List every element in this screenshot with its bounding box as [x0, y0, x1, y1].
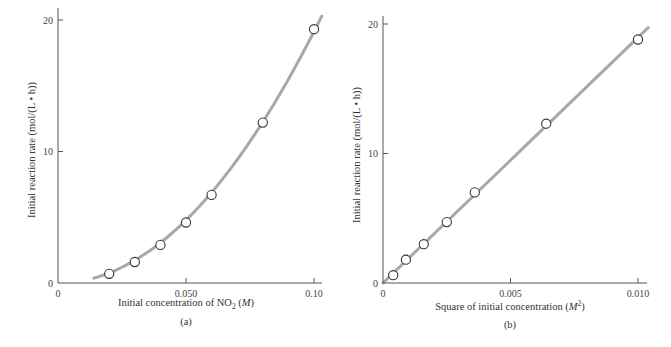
x-tick-label: 0.10 — [305, 288, 323, 299]
data-point — [156, 240, 165, 249]
panel-label-a: (a) — [180, 316, 192, 328]
data-point — [130, 257, 139, 266]
x-axis-label-a: Initial concentration of NO2 (M) — [118, 297, 255, 311]
data-point — [419, 240, 428, 249]
panel-label-b: (b) — [504, 319, 517, 331]
y-axis-label-b: Initial reaction rate (mol/(L • h)) — [351, 87, 363, 223]
fit-curve-a — [94, 16, 322, 278]
chart-panel-b: 0102000.0050.010 Initial reaction rate (… — [351, 16, 649, 331]
y-tick-label: 0 — [373, 278, 378, 289]
data-point — [401, 255, 410, 264]
x-tick-label: 0 — [381, 288, 386, 299]
y-tick-label: 0 — [48, 278, 53, 289]
data-point — [542, 119, 551, 128]
y-tick-label: 10 — [43, 146, 53, 157]
tick-labels-a: 0102000.0500.10 — [43, 15, 323, 300]
axes-a — [58, 8, 322, 283]
x-tick-label: 0 — [56, 288, 61, 299]
data-point — [309, 25, 318, 34]
y-axis-label-a: Initial reaction rate (mol/(L • h)) — [26, 82, 38, 218]
chart-figure: 0102000.0500.10 Initial reaction rate (m… — [0, 0, 671, 347]
x-axis-label-b: Square of initial concentration (M2) — [435, 299, 585, 313]
data-point — [207, 190, 216, 199]
data-point — [442, 218, 451, 227]
y-tick-label: 10 — [368, 148, 378, 159]
data-point — [633, 35, 642, 44]
fit-curve — [94, 16, 322, 278]
data-points-a — [105, 25, 319, 279]
y-tick-label: 20 — [43, 15, 53, 26]
data-point — [470, 188, 479, 197]
data-point — [181, 218, 190, 227]
chart-panel-a: 0102000.0500.10 Initial reaction rate (m… — [26, 8, 323, 328]
data-point — [258, 118, 267, 127]
x-tick-label: 0.005 — [499, 288, 522, 299]
x-tick-label: 0.010 — [627, 288, 650, 299]
y-tick-label: 20 — [368, 19, 378, 30]
data-point — [105, 269, 114, 278]
data-point — [389, 271, 398, 280]
